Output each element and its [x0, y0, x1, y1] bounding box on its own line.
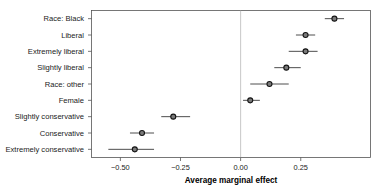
estimate-marker — [303, 33, 308, 38]
coefficient-plot-figure: Race: BlackLiberalExtremely liberalSligh… — [0, 0, 382, 196]
estimate-point-group — [325, 16, 344, 21]
plot-frame — [92, 11, 371, 158]
estimate-point-group — [289, 49, 318, 54]
estimate-marker — [284, 65, 289, 70]
x-axis-tick-label: 0.00 — [233, 163, 247, 172]
x-axis-tick-label: 0.25 — [294, 163, 308, 172]
estimate-point-group — [130, 131, 154, 136]
x-axis-tick-label: −0.25 — [171, 163, 190, 172]
estimate-point-group — [296, 33, 315, 38]
estimate-marker — [140, 131, 145, 136]
y-axis-category-label: Liberal — [61, 31, 84, 40]
y-axis-category-label: Female — [59, 96, 84, 105]
estimate-marker — [267, 82, 272, 87]
estimate-point-group — [250, 82, 288, 87]
estimate-marker — [132, 147, 137, 152]
y-axis-category-label: Slightly conservative — [15, 112, 84, 121]
estimate-marker — [332, 16, 337, 21]
estimate-point-group — [161, 114, 190, 119]
y-axis-category-label: Slightly liberal — [37, 63, 84, 72]
estimate-point-group — [108, 147, 154, 152]
y-axis-category-label: Race: Black — [43, 14, 84, 23]
x-axis-tick-label: −0.50 — [111, 163, 130, 172]
y-axis-category-label: Race: other — [45, 80, 85, 89]
y-axis-category-label: Conservative — [40, 129, 84, 138]
estimate-marker — [303, 49, 308, 54]
x-axis-title: Average marginal effect — [185, 176, 278, 185]
estimate-marker — [171, 114, 176, 119]
estimate-point-group — [243, 98, 260, 103]
estimate-marker — [248, 98, 253, 103]
y-axis-category-label: Extremely liberal — [28, 47, 84, 56]
estimate-point-group — [274, 65, 300, 70]
plot-canvas: Race: BlackLiberalExtremely liberalSligh… — [0, 0, 382, 196]
y-axis-category-label: Extremely conservative — [6, 145, 85, 154]
